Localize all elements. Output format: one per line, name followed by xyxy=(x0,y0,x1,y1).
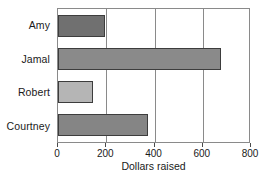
y-axis-label-cell: Robert xyxy=(0,76,53,110)
x-axis-tick-label: 800 xyxy=(242,148,259,159)
y-axis-tick-label: Courtney xyxy=(7,120,53,132)
x-axis-ticks: 0200400600800 xyxy=(57,143,250,149)
bar-row xyxy=(58,76,249,109)
bar-row xyxy=(58,9,249,42)
y-axis-tick-label: Robert xyxy=(18,86,53,98)
y-axis-tick-label: Amy xyxy=(29,19,53,31)
plot-inner xyxy=(58,9,249,142)
y-axis-label-cell: Courtney xyxy=(0,109,53,143)
x-axis-tick-label: 200 xyxy=(97,148,114,159)
x-axis-title: Dollars raised xyxy=(57,160,250,172)
bar-jamal xyxy=(58,48,221,70)
bar-row xyxy=(58,42,249,75)
x-axis-tickmark xyxy=(57,143,58,147)
bar-courtney xyxy=(58,114,148,136)
x-axis-tickmark xyxy=(105,143,106,147)
bar-chart: Amy Jamal Robert Courtney xyxy=(0,0,266,174)
x-axis-tickmark xyxy=(250,143,251,147)
bar-row xyxy=(58,109,249,142)
bar-robert xyxy=(58,81,93,103)
x-axis-tickmark xyxy=(202,143,203,147)
bar-amy xyxy=(58,15,105,37)
y-axis-category-labels: Amy Jamal Robert Courtney xyxy=(0,8,53,143)
y-axis-label-cell: Amy xyxy=(0,8,53,42)
x-axis-tick-label: 600 xyxy=(193,148,210,159)
x-axis-tick-label: 0 xyxy=(54,148,60,159)
bar-series xyxy=(58,9,249,142)
x-axis-tickmark xyxy=(154,143,155,147)
y-axis-label-cell: Jamal xyxy=(0,42,53,76)
plot-area xyxy=(57,8,250,143)
y-axis-tick-label: Jamal xyxy=(21,53,53,65)
x-axis-tick-label: 400 xyxy=(145,148,162,159)
